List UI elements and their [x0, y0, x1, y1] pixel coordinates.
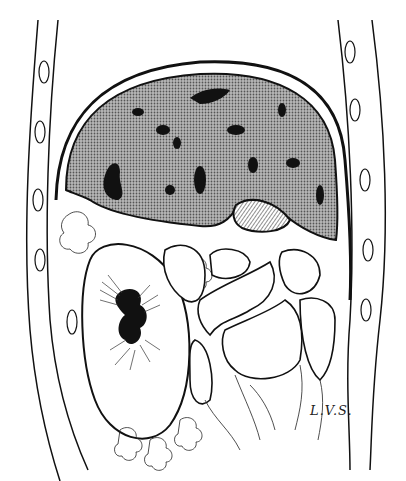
- illustration-canvas: L.V.S.: [0, 0, 406, 481]
- artist-signature: L.V.S.: [310, 403, 353, 418]
- intestinal-loops: [164, 245, 335, 404]
- left-body-wall: [27, 20, 88, 481]
